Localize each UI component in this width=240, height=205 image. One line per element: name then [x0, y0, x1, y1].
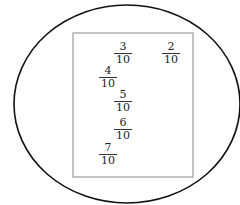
denominator: 10	[101, 155, 115, 166]
denominator: 10	[116, 130, 130, 141]
fraction-2-over-10: 210	[162, 42, 180, 65]
denominator: 10	[116, 54, 130, 65]
fraction-5-over-10: 510	[114, 90, 132, 113]
fraction-3-over-10: 310	[114, 42, 132, 65]
denominator: 10	[101, 78, 115, 89]
fraction-6-over-10: 610	[114, 118, 132, 141]
fraction-4-over-10: 410	[99, 66, 117, 89]
denominator: 10	[164, 54, 178, 65]
denominator: 10	[116, 102, 130, 113]
fraction-7-over-10: 710	[99, 143, 117, 166]
